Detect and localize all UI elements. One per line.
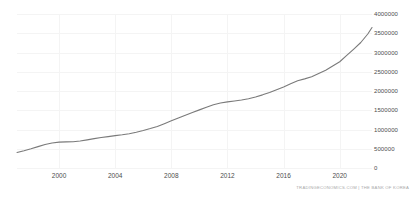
x-tick-label: 2004 (108, 172, 122, 180)
x-tick-label: 2016 (276, 172, 290, 180)
x-tick-label: 2000 (52, 172, 66, 180)
x-tick-label: 2012 (220, 172, 234, 180)
x-axis: 200020042008201220162020 (0, 0, 417, 214)
attribution-text: TRADINGECONOMICS.COM | THE BANK OF KOREA (296, 185, 409, 191)
x-tick-label: 2008 (164, 172, 178, 180)
chart-screenshot: 0500000100000015000002000000250000030000… (0, 0, 417, 214)
x-tick-label: 2020 (332, 172, 346, 180)
